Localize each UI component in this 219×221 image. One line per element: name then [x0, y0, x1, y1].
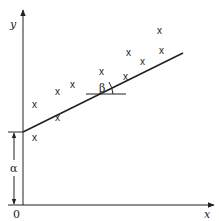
data-point: x — [140, 56, 145, 67]
regression-diagram: y x 0 α β x x x x x x x x x x x — [0, 0, 219, 221]
origin-label: 0 — [13, 208, 20, 221]
data-point: x — [157, 25, 162, 36]
data-point: x — [99, 66, 104, 77]
data-point: x — [70, 79, 75, 90]
data-point: x — [123, 71, 128, 82]
data-points: x x x x x x x x x x x — [32, 25, 164, 143]
data-point: x — [159, 45, 164, 56]
slope-angle-label: β — [99, 82, 105, 95]
data-point: x — [55, 86, 60, 97]
data-point: x — [32, 99, 37, 110]
data-point: x — [55, 112, 60, 123]
intercept-label: α — [10, 162, 18, 175]
x-axis-label: x — [204, 208, 211, 221]
y-axis-label: y — [9, 18, 17, 31]
data-point: x — [126, 47, 131, 58]
data-point: x — [32, 132, 37, 143]
